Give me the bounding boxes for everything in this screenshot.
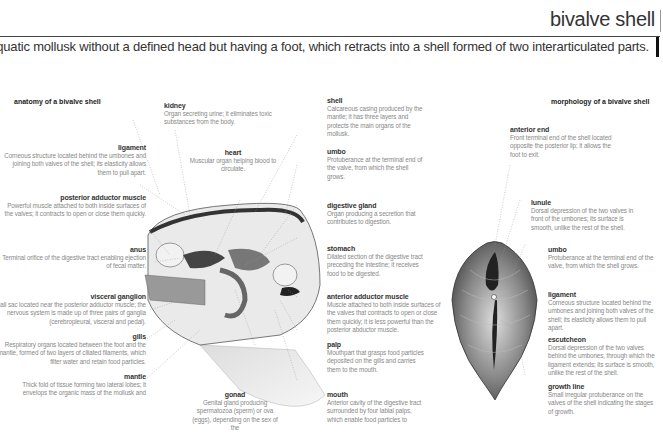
label-desc: Muscle attached to both inside surfaces … (327, 301, 440, 333)
label-desc: Organ producing a secretion that contrib… (327, 210, 416, 225)
label-desc: Powerful muscle attached to both inside … (5, 202, 146, 217)
title-tick (660, 10, 661, 32)
subtitle-bar (656, 37, 659, 57)
anatomy-illustration (145, 203, 325, 406)
label-anterior-end: anterior end Front terminal end of the s… (510, 125, 620, 159)
label-name: gills (0, 332, 146, 341)
label-desc: Genital gland producing spermatozoa (spe… (192, 399, 277, 431)
label-desc: Corneous structure located behind the um… (548, 299, 653, 331)
label-name: visceral ganglion (0, 292, 146, 301)
label-escutcheon: escutcheon Dorsal depression of the two … (548, 335, 663, 378)
label-umbo-morphology: umbo Protuberance at the terminal end of… (548, 245, 658, 271)
label-desc: Front terminal end of the shell located … (510, 134, 611, 158)
label-desc: Small sac located near the posterior add… (0, 301, 146, 325)
label-name: mantle (0, 372, 146, 381)
label-kidney: kidney Organ secreting urine; it elimina… (164, 101, 274, 127)
label-desc: Respiratory organs located between the f… (0, 341, 146, 365)
label-anterior-adductor-muscle: anterior adductor muscle Muscle attached… (327, 292, 447, 335)
label-desc: Mouthpart that grasps food particles dep… (327, 349, 424, 373)
label-name: escutcheon (548, 335, 663, 344)
label-posterior-adductor-muscle: posterior adductor muscle Powerful muscl… (0, 193, 146, 219)
label-shell: shell Calcareous casing produced by the … (327, 96, 427, 139)
label-desc: Protuberance at the terminal end of the … (548, 254, 653, 269)
label-desc: Dorsal depression of the two valves behi… (548, 344, 655, 376)
label-ligament-morphology: ligament Corneous structure located behi… (548, 290, 658, 333)
label-desc: Anterior cavity of the digestive tract s… (327, 399, 421, 423)
label-name: mouth (327, 390, 427, 399)
label-name: anus (0, 245, 146, 254)
label-desc: Muscular organ helping blood to circulat… (190, 157, 277, 172)
label-name: umbo (327, 147, 427, 156)
morphology-section-title: morphology of a bivalve shell (551, 98, 649, 105)
label-name: ligament (548, 290, 658, 299)
label-ligament: ligament Corneous structure located behi… (0, 143, 146, 177)
label-mouth: mouth Anterior cavity of the digestive t… (327, 390, 427, 424)
page-title: bivalve shell (550, 8, 655, 31)
label-mantle: mantle Thick fold of tissue forming two … (0, 372, 146, 398)
label-name: anterior end (510, 125, 620, 134)
header-rule (0, 36, 660, 37)
label-umbo: umbo Protuberance at the terminal end of… (327, 147, 427, 181)
label-name: ligament (0, 143, 146, 152)
label-gonad: gonad Genital gland producing spermatozo… (190, 390, 280, 433)
label-desc: Organ secreting urine; it eliminates tox… (164, 110, 272, 125)
label-growth-line: growth line Small irregular protuberance… (548, 382, 658, 416)
label-name: posterior adductor muscle (0, 193, 146, 202)
label-desc: Terminal orifice of the digestive tract … (2, 254, 146, 269)
label-anus: anus Terminal orifice of the digestive t… (0, 245, 146, 271)
morphology-illustration (452, 242, 537, 401)
page-subtitle: Aquatic mollusk without a defined head b… (0, 39, 649, 54)
label-desc: Corneous structure located behind the um… (4, 152, 146, 176)
label-name: anterior adductor muscle (327, 292, 447, 301)
label-visceral-ganglion: visceral ganglion Small sac located near… (0, 292, 146, 326)
label-desc: Small irregular protuberance on the valv… (548, 391, 653, 415)
label-lunule: lunule Dorsal depression of the two valv… (531, 198, 641, 232)
label-palp: palp Mouthpart that grasps food particle… (327, 340, 427, 374)
label-desc: Dilated section of the digestive tract p… (327, 253, 423, 277)
label-name: palp (327, 340, 427, 349)
label-name: shell (327, 96, 427, 105)
label-digestive-gland: digestive gland Organ producing a secret… (327, 201, 427, 227)
label-desc: Dorsal depression of the two valves in f… (531, 207, 633, 231)
anatomy-section-title: anatomy of a bivalve shell (14, 98, 101, 105)
label-name: digestive gland (327, 201, 427, 210)
label-heart: heart Muscular organ helping blood to ci… (178, 148, 288, 174)
label-name: stomach (327, 244, 427, 253)
label-gills: gills Respiratory organs located between… (0, 332, 146, 366)
label-desc: Thick fold of tissue forming two lateral… (22, 381, 146, 396)
label-stomach: stomach Dilated section of the digestive… (327, 244, 427, 278)
label-name: lunule (531, 198, 641, 207)
label-name: heart (178, 148, 288, 157)
label-name: kidney (164, 101, 274, 110)
label-desc: Protuberance at the terminal end of the … (327, 156, 422, 180)
label-name: umbo (548, 245, 658, 254)
label-desc: Calcareous casing produced by the mantle… (327, 105, 422, 137)
label-name: growth line (548, 382, 658, 391)
label-name: gonad (190, 390, 280, 399)
